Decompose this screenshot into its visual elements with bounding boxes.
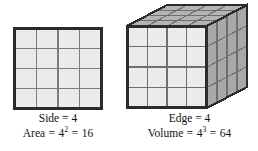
square-grid-figure (15, 29, 102, 109)
cube-grid-figure (127, 5, 247, 108)
square-side-line: Side = 4 (0, 111, 116, 126)
cube-caption: Edge = 4 Volume = 43 = 64 (121, 111, 258, 140)
figure-root: Side = 4 Area = 42 = 16 Edge = 4 Volume … (0, 0, 258, 151)
cube-volume-line: Volume = 43 = 64 (121, 126, 258, 141)
cube-edge-line: Edge = 4 (121, 111, 258, 126)
cube-volume-result: 64 (220, 127, 232, 139)
cube-volume-equals-1: = (183, 127, 196, 139)
square-area-equals-2: = (68, 127, 81, 139)
cube-volume-label: Volume (148, 127, 184, 139)
square-area-equals-1: = (45, 127, 58, 139)
square-area-result: 16 (82, 127, 94, 139)
square-area-label: Area (23, 127, 45, 139)
square-caption: Side = 4 Area = 42 = 16 (0, 111, 116, 140)
square-area-line: Area = 42 = 16 (0, 126, 116, 141)
cube-volume-equals-2: = (206, 127, 219, 139)
